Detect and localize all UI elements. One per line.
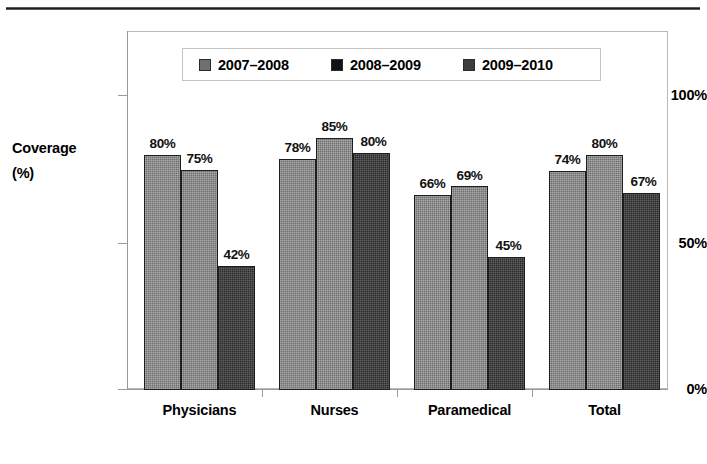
x-category-label-total: Total	[537, 402, 672, 418]
bar-paramedical-2008-2009	[451, 186, 488, 390]
bar-nurses-2009-2010	[353, 153, 390, 390]
bar-nurses-2007-2008	[279, 159, 316, 390]
bar-total-2007-2008	[549, 171, 586, 390]
grouped-bar-chart: 100% 50% 0% Coverage (%) 2007–2008 2008–…	[0, 0, 707, 464]
bar-physicians-2008-2009	[181, 170, 218, 391]
bar-total-2008-2009	[586, 155, 623, 390]
x-category-label-nurses: Nurses	[267, 402, 402, 418]
bar-value-physicians-2007-2008: 80%	[134, 136, 191, 151]
bar-paramedical-2007-2008	[414, 195, 451, 390]
bars-layer: 80% 75% 42% 78% 85% 80% 66% 69% 45% 74% …	[0, 0, 707, 464]
bar-total-2009-2010	[623, 193, 660, 390]
x-category-label-paramedical: Paramedical	[402, 402, 537, 418]
x-category-label-physicians: Physicians	[132, 402, 267, 418]
bar-value-total-2008-2009: 80%	[576, 136, 633, 151]
bar-physicians-2007-2008	[144, 155, 181, 390]
bar-nurses-2008-2009	[316, 138, 353, 390]
bar-value-nurses-2007-2008: 78%	[269, 140, 326, 155]
bar-value-physicians-2008-2009: 75%	[171, 151, 228, 166]
bar-physicians-2009-2010	[218, 266, 255, 391]
bar-value-paramedical-2009-2010: 45%	[480, 238, 537, 253]
bar-value-total-2009-2010: 67%	[615, 174, 672, 189]
bar-value-physicians-2009-2010: 42%	[208, 247, 265, 262]
bar-value-total-2007-2008: 74%	[539, 152, 596, 167]
bar-value-nurses-2009-2010: 80%	[345, 134, 402, 149]
bar-value-paramedical-2008-2009: 69%	[441, 168, 498, 183]
bar-paramedical-2009-2010	[488, 257, 525, 390]
bar-value-nurses-2008-2009: 85%	[306, 119, 363, 134]
